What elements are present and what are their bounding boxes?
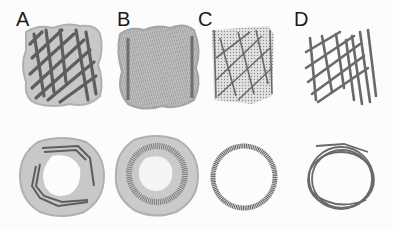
panel-a-top-view (18, 136, 108, 216)
panel-c-side-view (208, 24, 280, 106)
panel-b-side-view (114, 20, 206, 110)
panel-d-side-view (302, 26, 382, 108)
panel-c-top-view (208, 142, 282, 212)
panel-a-side-view (18, 20, 108, 110)
panel-b-top-view (114, 134, 200, 216)
panel-d-top-view (304, 140, 380, 214)
figure: A B C D (0, 0, 393, 230)
